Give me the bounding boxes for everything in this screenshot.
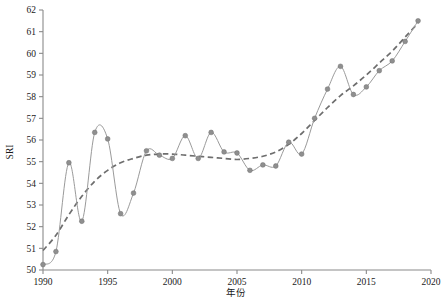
data-point-marker [79,219,84,224]
data-point-marker [260,163,265,168]
data-point-marker [364,85,369,90]
y-axis-title: SRI [5,145,15,160]
y-tick-label: 57 [27,114,37,124]
line-chart-svg: 50515253545556575859606162 1990199520002… [0,0,441,304]
data-point-marker [105,137,110,142]
sri-line-series [43,21,418,265]
y-tick-label: 60 [27,49,37,59]
data-point-marker [403,39,408,44]
data-point-marker [222,150,227,155]
y-tick-label: 61 [27,27,37,37]
x-tick-label: 1995 [98,277,117,287]
data-point-marker [338,64,343,69]
x-tick-label: 2015 [357,277,376,287]
x-axis-tick-group: 1990199520002005201020152020 [34,270,441,287]
x-tick-label: 2020 [422,277,441,287]
y-tick-label: 54 [27,179,37,189]
x-tick-label: 2010 [292,277,311,287]
x-axis-title: 年份 [226,287,246,298]
y-tick-label: 58 [27,92,37,102]
data-point-marker [351,92,356,97]
data-point-marker [286,140,291,145]
data-point-marker [66,160,71,165]
y-tick-label: 52 [27,222,37,232]
y-tick-label: 51 [27,244,37,254]
data-point-marker [144,148,149,153]
x-tick-label: 2005 [228,277,247,287]
data-point-marker [416,18,421,23]
data-point-marker-group [41,18,421,267]
data-point-marker [312,116,317,121]
x-tick-label: 1990 [34,277,53,287]
data-point-marker [209,130,214,135]
data-point-marker [235,151,240,156]
y-tick-label: 56 [27,135,37,145]
chart-container: 50515253545556575859606162 1990199520002… [0,0,441,304]
data-point-marker [170,156,175,161]
data-point-marker [196,156,201,161]
trend-line-series [43,23,418,251]
data-point-marker [377,68,382,73]
data-point-marker [325,87,330,92]
y-tick-label: 62 [27,5,37,15]
data-point-marker [131,191,136,196]
data-point-marker [92,130,97,135]
data-point-marker [273,164,278,169]
data-point-marker [157,153,162,158]
data-point-marker [299,152,304,157]
data-point-marker [118,211,123,216]
data-point-marker [183,133,188,138]
data-point-marker [41,262,46,267]
data-point-marker [54,249,59,254]
y-tick-label: 53 [27,200,37,210]
y-tick-label: 55 [27,157,37,167]
x-tick-label: 2000 [163,277,182,287]
y-axis-tick-group: 50515253545556575859606162 [27,5,44,275]
data-point-marker [248,168,253,173]
y-tick-label: 50 [27,265,37,275]
y-tick-label: 59 [27,70,37,80]
data-point-marker [390,59,395,64]
